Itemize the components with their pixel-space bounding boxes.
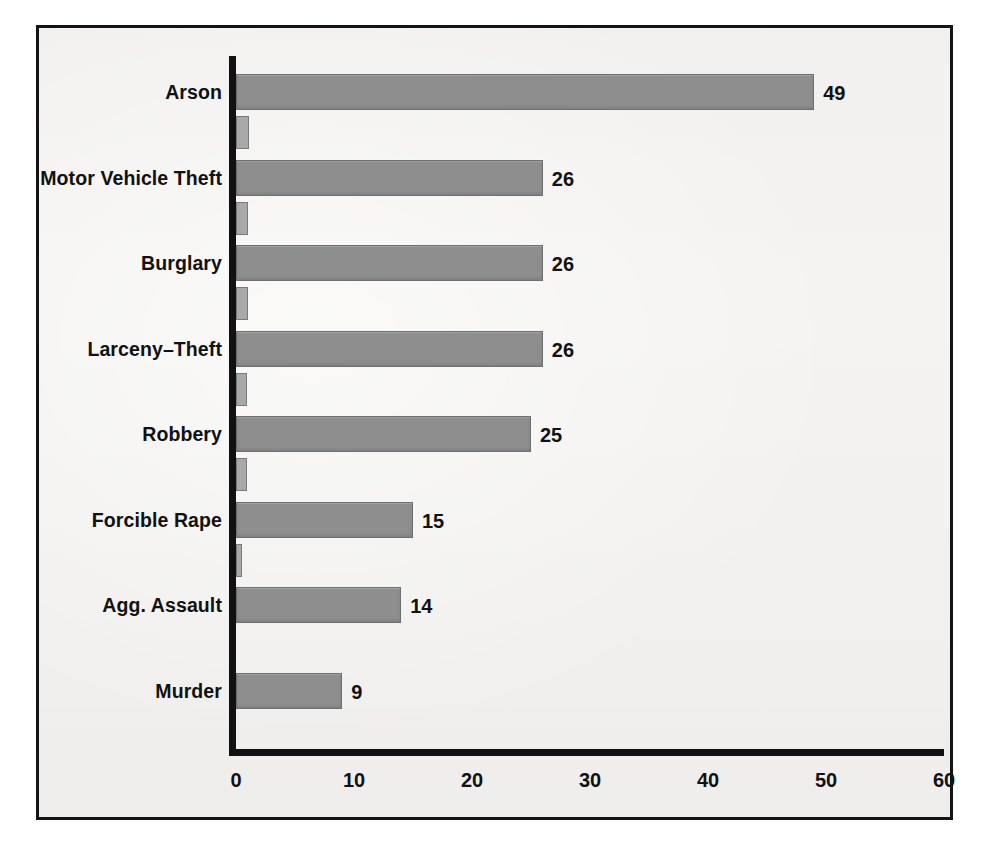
bar-row: Forcible Rape15 [236,502,944,588]
bar-value-label: 9 [351,674,362,710]
bar-secondary [236,116,249,149]
plot-area: Arson49Motor Vehicle Theft26Burglary26La… [39,28,956,823]
bar-value-label: 14 [410,588,432,624]
category-label: Arson [165,74,222,110]
category-label: Forcible Rape [92,502,222,538]
chart-page: Arson49Motor Vehicle Theft26Burglary26La… [0,0,989,850]
bar-primary: 26 [236,245,543,281]
x-axis-tick-label: 60 [933,769,955,792]
bar-primary: 14 [236,587,401,623]
x-axis-tick-label: 0 [230,769,241,792]
bar-row: Larceny–Theft26 [236,331,944,417]
bar-primary: 9 [236,673,342,709]
bar-secondary [236,287,248,320]
bar-row: Robbery25 [236,416,944,502]
bar-row: Motor Vehicle Theft26 [236,160,944,246]
bar-row: Arson49 [236,74,944,160]
chart-frame: Arson49Motor Vehicle Theft26Burglary26La… [36,25,953,820]
bar-secondary [236,202,248,235]
bar-row: Murder9 [236,673,944,759]
bar-primary: 26 [236,331,543,367]
category-label: Agg. Assault [102,587,222,623]
bar-primary: 49 [236,74,814,110]
bar-value-label: 26 [552,332,574,368]
bar-primary: 26 [236,160,543,196]
category-label: Robbery [142,416,222,452]
bar-secondary [236,458,247,491]
category-label: Motor Vehicle Theft [40,160,222,196]
bar-primary: 25 [236,416,531,452]
bar-row: Agg. Assault14 [236,587,944,673]
x-axis-tick-label: 50 [815,769,837,792]
bar-value-label: 26 [552,246,574,282]
bar-secondary [236,373,247,406]
bar-row: Burglary26 [236,245,944,331]
bar-primary: 15 [236,502,413,538]
y-axis-line [229,56,236,756]
x-axis-tick-label: 40 [697,769,719,792]
category-label: Larceny–Theft [87,331,222,367]
category-label: Murder [155,673,222,709]
bar-value-label: 25 [540,417,562,453]
x-axis-tick-label: 20 [461,769,483,792]
x-axis-tick-label: 30 [579,769,601,792]
x-axis-tick-label: 10 [343,769,365,792]
bar-value-label: 15 [422,503,444,539]
bar-secondary [236,544,242,577]
bar-value-label: 49 [823,75,845,111]
bar-value-label: 26 [552,161,574,197]
category-label: Burglary [141,245,222,281]
